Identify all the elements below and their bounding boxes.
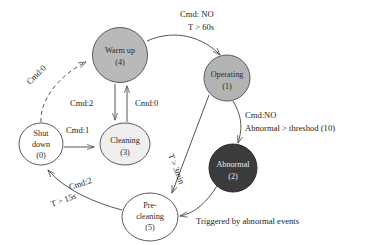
edge-abnormal-to-precleaning bbox=[180, 186, 217, 216]
node-abnormal-id: (2) bbox=[228, 172, 238, 181]
edge-label-cmd-no-abnormal: Cmd:NO bbox=[245, 110, 277, 120]
edge-label-cmd2-vertical: Cmd:2 bbox=[70, 98, 93, 108]
edge-label-t-60s: T > 60s bbox=[188, 22, 215, 32]
node-shut-down-label2: down bbox=[32, 140, 50, 149]
node-warm-up-label: Warm up bbox=[105, 46, 135, 55]
node-cleaning-label: Cleaning bbox=[110, 136, 140, 145]
edge-label-t-3min: T > 3min bbox=[166, 152, 187, 186]
edge-label-cmd2-diag: Cmd:2 bbox=[68, 175, 93, 192]
node-warm-up-id: (4) bbox=[115, 58, 125, 67]
edge-warmup-to-operating bbox=[147, 35, 220, 55]
edge-label-cmd-no: Cmd: NO bbox=[180, 9, 214, 19]
diagram-canvas: Warm up (4) Operating (1) Abnormal (2) P… bbox=[0, 0, 372, 245]
node-pre-cleaning[interactable]: Pre- cleaning (5) bbox=[122, 193, 178, 241]
node-operating[interactable]: Operating (1) bbox=[204, 55, 250, 101]
edge-operating-to-abnormal bbox=[233, 101, 241, 143]
node-shut-down-label1: Shut bbox=[33, 129, 49, 138]
node-operating-label: Operating bbox=[211, 70, 244, 79]
edge-label-cmd1: Cmd:1 bbox=[66, 125, 89, 135]
node-pre-cleaning-label2: cleaning bbox=[136, 212, 164, 221]
node-shut-down[interactable]: Shut down (0) bbox=[19, 123, 63, 165]
edge-label-cmd0-vertical: Cmd:0 bbox=[135, 98, 158, 108]
node-operating-id: (1) bbox=[222, 82, 232, 91]
node-pre-cleaning-id: (5) bbox=[145, 223, 155, 232]
node-cleaning[interactable]: Cleaning (3) bbox=[100, 123, 150, 165]
edge-label-triggered: Triggered by abnormal events bbox=[196, 216, 300, 226]
edge-shutdown-to-warmup bbox=[41, 62, 86, 122]
state-diagram: Warm up (4) Operating (1) Abnormal (2) P… bbox=[0, 0, 372, 245]
edge-label-cmd0-dashed: Cmd:0 bbox=[24, 63, 48, 87]
node-abnormal-label: Abnormal bbox=[216, 160, 250, 169]
node-shut-down-id: (0) bbox=[36, 151, 46, 160]
node-pre-cleaning-label1: Pre- bbox=[143, 201, 157, 210]
node-abnormal[interactable]: Abnormal (2) bbox=[209, 144, 257, 192]
edge-label-t-15s: T > 15s bbox=[49, 190, 78, 209]
node-cleaning-id: (3) bbox=[120, 148, 130, 157]
node-warm-up[interactable]: Warm up (4) bbox=[93, 28, 148, 83]
edge-label-abnormal-threshold: Abnormal > threshod (10) bbox=[245, 123, 335, 133]
